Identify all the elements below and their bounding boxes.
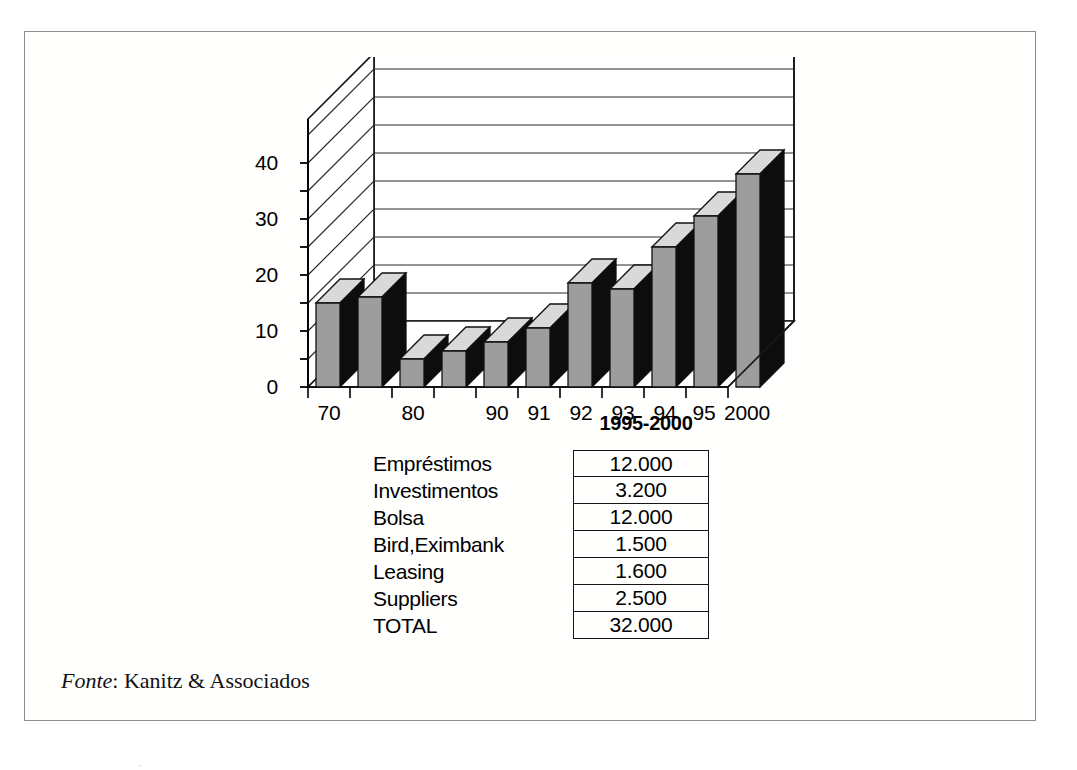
row-label-total: TOTAL — [373, 612, 573, 639]
row-value-total: 32.000 — [573, 612, 709, 639]
row-label-suppliers: Suppliers — [373, 585, 573, 612]
x-tick-2000: 2000 — [719, 401, 775, 425]
source-label: Fonte — [61, 668, 112, 693]
table-row: Investimentos 3.200 — [373, 477, 714, 504]
row-label-bolsa: Bolsa — [373, 504, 573, 531]
x-tick-70: 70 — [313, 401, 345, 425]
bar-9 — [652, 223, 700, 387]
y-tick-20: 20 — [232, 263, 278, 287]
table-body: Empréstimos 12.000 Investimentos 3.200 B… — [373, 450, 714, 639]
row-value-investimentos: 3.200 — [573, 477, 709, 504]
y-tick-0: 0 — [232, 375, 278, 399]
row-value-emprestimos: 12.000 — [573, 450, 709, 477]
table-column-heading: 1995-2000 — [578, 412, 714, 435]
bar-11 — [736, 150, 784, 387]
source-value: Kanitz & Associados — [124, 668, 310, 693]
row-value-bolsa: 12.000 — [573, 504, 709, 531]
row-label-investimentos: Investimentos — [373, 477, 573, 504]
y-tick-30: 30 — [232, 207, 278, 231]
bar-7 — [568, 259, 616, 387]
x-axis — [308, 387, 728, 398]
x-tick-80: 80 — [397, 401, 429, 425]
bar-8 — [610, 265, 658, 387]
row-value-suppliers: 2.500 — [573, 585, 709, 612]
source-credit: Fonte: Kanitz & Associados — [61, 668, 310, 694]
source-separator: : — [112, 668, 124, 693]
x-tick-90: 90 — [481, 401, 513, 425]
chart-canvas — [230, 57, 890, 427]
table-row: Bird,Eximbank 1.500 — [373, 531, 714, 558]
bar-chart: 0 10 20 30 40 70 80 90 91 92 93 94 95 20… — [230, 57, 890, 427]
y-tick-10: 10 — [232, 319, 278, 343]
y-tick-40: 40 — [232, 151, 278, 175]
row-label-leasing: Leasing — [373, 558, 573, 585]
table-row: Bolsa 12.000 — [373, 504, 714, 531]
y-axis — [300, 119, 308, 387]
x-tick-91: 91 — [523, 401, 555, 425]
table-row: Leasing 1.600 — [373, 558, 714, 585]
table-row: TOTAL 32.000 — [373, 612, 714, 639]
page-text-artifact: recursos externos — [52, 759, 612, 767]
row-value-leasing: 1.600 — [573, 558, 709, 585]
row-label-bird-eximbank: Bird,Eximbank — [373, 531, 573, 558]
figure-frame: 0 10 20 30 40 70 80 90 91 92 93 94 95 20… — [24, 31, 1036, 721]
row-value-bird-eximbank: 1.500 — [573, 531, 709, 558]
bar-1 — [316, 279, 364, 387]
table-row: Empréstimos 12.000 — [373, 450, 714, 477]
table-row: Suppliers 2.500 — [373, 585, 714, 612]
bar-2 — [358, 273, 406, 387]
row-label-emprestimos: Empréstimos — [373, 450, 573, 477]
bar-10 — [694, 192, 742, 387]
